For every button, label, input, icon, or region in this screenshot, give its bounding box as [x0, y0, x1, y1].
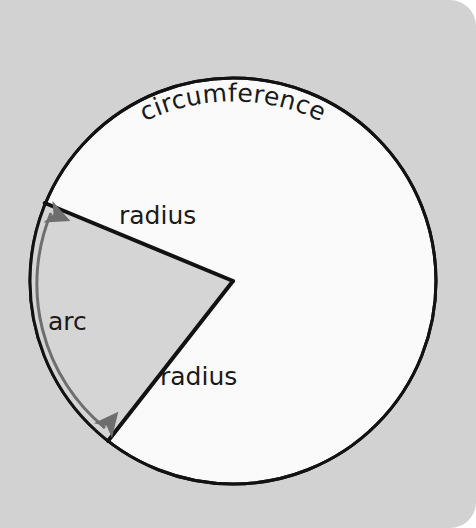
radius-label-lower: radius	[160, 362, 237, 391]
radius-label-upper: radius	[119, 201, 196, 230]
arc-label: arc	[48, 307, 87, 336]
circle-geometry-diagram: circumference radius radius arc	[0, 0, 476, 528]
figure-page: circumference radius radius arc	[0, 0, 476, 528]
